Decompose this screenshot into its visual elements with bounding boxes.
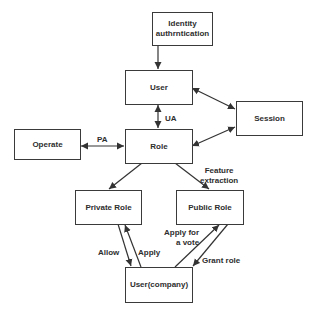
edge-label-feature: Feature extraction [200,166,238,186]
edge-label-allow: Allow [98,248,119,258]
node-session: Session [236,101,303,136]
edge-role-private [109,163,142,189]
edge-label-pa: PA [97,135,108,145]
node-label: Public Role [188,203,232,213]
node-operate: Operate [14,129,81,160]
edge-label-line: Apply for [164,228,199,238]
edge-label-grant-role: Grant role [202,256,240,266]
node-label: User(company) [130,280,188,290]
node-label: Role [150,142,167,152]
edge-label-apply: Apply [138,248,160,258]
edge-label-line: extraction [200,176,238,186]
edge-role-session [192,127,235,146]
node-public-role: Public Role [176,190,244,225]
edge-user-session [192,88,235,109]
node-label: Private Role [85,203,131,213]
node-role: Role [125,129,193,164]
edge-label-line: Feature [200,166,238,176]
node-identity-authentication: Identity authrntication [152,12,213,46]
edge-private-user-allow [118,224,131,266]
edge-label-line: a vote [164,238,199,248]
node-label: User [150,83,168,93]
node-label: Session [254,114,285,124]
node-private-role: Private Role [75,190,142,225]
node-user-company: User(company) [125,267,193,303]
edge-label-apply-vote: Apply for a vote [164,228,199,248]
edge-label-ua: UA [165,114,177,124]
edge-user-private-apply [125,225,141,267]
node-user: User [125,70,193,105]
node-label: Operate [32,140,62,150]
node-label: Identity authrntication [153,19,212,39]
